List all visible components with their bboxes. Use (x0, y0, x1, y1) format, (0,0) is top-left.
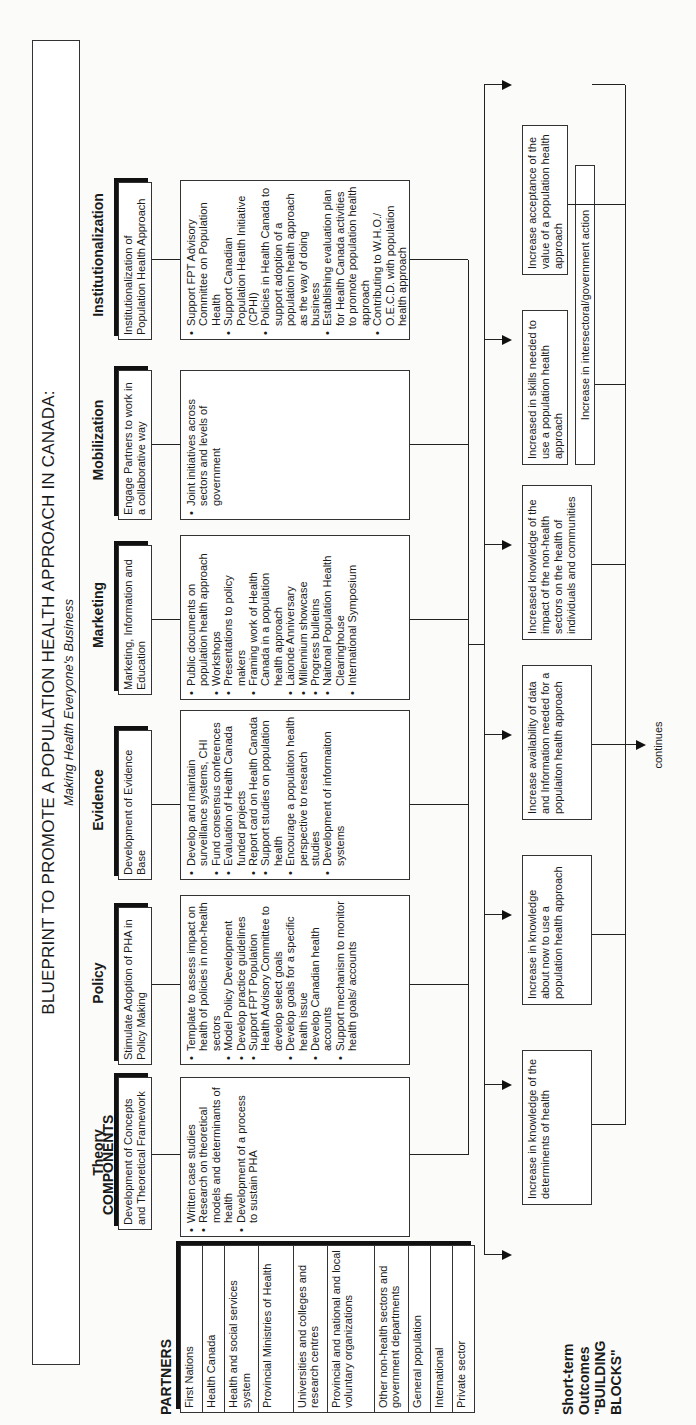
component-institutionalization-description: Institutionalization of Population Healt… (118, 182, 152, 340)
component-institutionalization-heading: Institutionalization (90, 165, 106, 345)
activity-item: Support FPT Population Health Advisory C… (247, 901, 284, 1060)
connector (484, 1084, 504, 1085)
partner-row: International (431, 1246, 453, 1412)
activity-item: Support studies on population health (259, 716, 284, 875)
connector (595, 384, 625, 385)
activity-item: Development of informaiton systems (321, 716, 346, 875)
partner-row: Other non-health sectors and government … (375, 1246, 409, 1412)
connector (410, 619, 468, 620)
outcome-box: Increase in knowledge of the determinent… (522, 1050, 592, 1205)
partner-row: General population (409, 1246, 431, 1412)
arrow-icon (502, 910, 512, 920)
partner-row: Health and social services system (225, 1246, 259, 1412)
connector (410, 259, 468, 260)
activity-item: Template to assess impact on health of p… (185, 901, 222, 1060)
distribution-bus (484, 85, 485, 1255)
activity-item: Presentations to policy makers (222, 541, 247, 695)
activity-item: Support Canadian Population Health Initi… (222, 186, 259, 335)
activity-item: Millennium showcase (297, 541, 309, 695)
component-marketing-heading: Marketing (90, 540, 106, 690)
activity-item: Written case studies (185, 1083, 197, 1232)
activity-item: Research on theoretical models and deter… (197, 1083, 234, 1232)
partner-row: Universities and colleges and research c… (294, 1246, 328, 1412)
activity-item: Encourage a population health perspectiv… (284, 716, 321, 875)
connector (468, 644, 484, 645)
activity-item: Evaluation of Health Canada funded proje… (222, 716, 247, 875)
connector (410, 984, 468, 985)
activity-item: Naitonal Population Health Clearinghouse (321, 541, 346, 695)
return-bus (625, 85, 626, 1125)
activity-item: Framing work of Health Canada in a popul… (247, 541, 284, 695)
connector (592, 564, 625, 565)
arrow-icon (636, 740, 646, 750)
collecting-bus (468, 260, 469, 1155)
connector (484, 544, 504, 545)
component-marketing-description: Marketing, Information and Education (118, 545, 152, 695)
component-policy-heading: Policy (90, 903, 106, 1063)
diagram-title: BLUEPRINT TO PROMOTE A POPULATION HEALTH… (39, 41, 59, 1364)
activity-item: Laionde Anniversary (284, 541, 296, 695)
connector (592, 84, 625, 85)
component-evidence-activities: Develop and maintain surveillance system… (180, 710, 410, 880)
outcome-box: Increased knowledge of the impact of the… (522, 485, 592, 640)
connector (484, 1254, 504, 1255)
connector (484, 914, 504, 915)
component-evidence-heading: Evidence (90, 725, 106, 875)
title-box: BLUEPRINT TO PROMOTE A POPULATION HEALTH… (32, 40, 80, 1365)
activity-item: Progress bulletins (309, 541, 321, 695)
partners-label: PARTNERS (158, 1339, 174, 1415)
activity-item: Develop Canadian health accounts (309, 901, 334, 1060)
connector (152, 444, 180, 445)
activity-item: Fund consensus conferences (210, 716, 222, 875)
outcome-box: Increased in skills needed to use a popu… (522, 310, 568, 465)
connector (410, 444, 468, 445)
partner-row: Provincial and national and local volunt… (328, 1246, 375, 1412)
connector (152, 619, 180, 620)
diagram-canvas: BLUEPRINT TO PROMOTE A POPULATION HEALTH… (0, 0, 696, 1425)
connector (568, 204, 625, 205)
component-evidence-description: Development of Evidence Base (118, 730, 152, 880)
activity-item: Establishing evaluation plan for Health … (321, 186, 371, 335)
arrow-icon (502, 540, 512, 550)
outcomes-label: Short-term Outcomes "BUILDING BLOCKS" (560, 1275, 624, 1415)
activity-item: Report card on Health Canada (247, 716, 259, 875)
connector (592, 934, 625, 935)
activity-item: Model Policy Development (222, 901, 234, 1060)
activity-item: Contributing to W.H.O./ O.E.C.D. with po… (371, 186, 408, 335)
arrow-icon (502, 335, 512, 345)
diagram-subtitle: Making Health Everyone's Business (61, 41, 76, 1364)
component-theory-heading: Theory (90, 1075, 106, 1230)
component-mobilization-description: Engage Partners to work in a collaborati… (118, 370, 152, 520)
activity-item: Develop goals for a specific health issu… (284, 901, 309, 1060)
continues-label: continues (652, 705, 664, 785)
arrow-icon (502, 1250, 512, 1260)
connector (592, 744, 625, 745)
arrow-icon (502, 730, 512, 740)
component-theory-activities: Written case studies Research on theoret… (180, 1077, 410, 1237)
connector (484, 84, 504, 85)
component-institutionalization-activities: Support FPT Advisory Committee on Popula… (180, 180, 410, 340)
connector (592, 1124, 625, 1125)
connector (152, 984, 180, 985)
connector (410, 1154, 468, 1155)
arrow-icon (502, 1080, 512, 1090)
outcome-box: Increase acceptance of the value of a po… (522, 125, 568, 275)
connector (410, 804, 468, 805)
activity-item: Develop and maintain surveillance system… (185, 716, 210, 875)
activity-item: Develop practice guidelines (235, 901, 247, 1060)
connector (484, 339, 504, 340)
activity-item: International Symposium (346, 541, 358, 695)
component-mobilization-heading: Mobilization (90, 365, 106, 515)
partner-row: First Nations (181, 1246, 203, 1412)
component-theory-description: Development of Concepts and Theoretical … (118, 1077, 152, 1230)
activity-item: Development of a process to sustain PHA (235, 1083, 260, 1232)
component-mobilization-activities: Joint initiatives across sectors and lev… (180, 370, 410, 520)
outcome-box: Increase in knowledge about now to use a… (522, 855, 592, 1005)
partner-row: Health Canada (203, 1246, 225, 1412)
activity-item: Support mechanism to monitor health goal… (334, 901, 359, 1060)
component-marketing-activities: Public documents on population health ap… (180, 535, 410, 700)
partners-table: First Nations Health Canada Health and s… (180, 1245, 475, 1413)
activity-item: Workshops (210, 541, 222, 695)
component-policy-activities: Template to assess impact on health of p… (180, 895, 410, 1065)
component-policy-description: Stimulate Adoption of PHA in Policy Maki… (118, 907, 152, 1065)
